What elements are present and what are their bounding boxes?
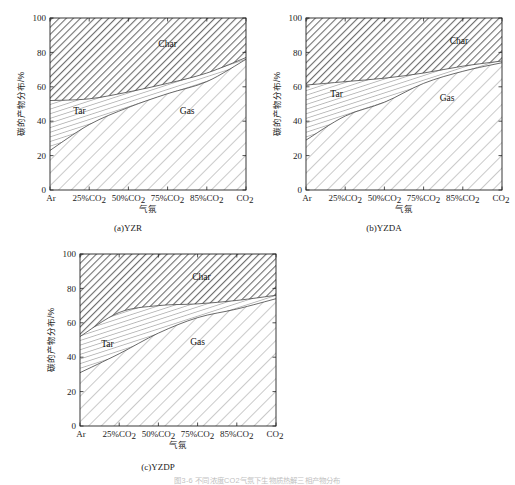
- x-axis-title: 气氛: [395, 204, 413, 214]
- y-tick-label: 60: [67, 318, 77, 328]
- x-tick-label: 75%CO2: [151, 193, 185, 205]
- x-tick-label: CO2: [492, 193, 509, 205]
- x-tick-label: 50%CO2: [112, 193, 145, 205]
- x-tick-label: 50%CO2: [142, 429, 175, 441]
- x-tick-label: 25%CO2: [328, 193, 362, 205]
- figure-bottom-caption: 图3-6 不同浓度CO2气氛下生物质热解三相产物分布: [0, 474, 515, 485]
- y-tick-label: 20: [293, 151, 303, 161]
- x-tick-label: 25%CO2: [102, 429, 136, 441]
- y-tick-label: 60: [293, 82, 303, 92]
- y-tick-label: 20: [37, 151, 47, 161]
- x-tick-label: 50%CO2: [368, 193, 401, 205]
- region-label-tar: Tar: [73, 106, 86, 116]
- region-label-tar: Tar: [330, 89, 343, 99]
- region-label-tar: Tar: [101, 339, 114, 349]
- chart-svg-c: 020406080100Ar25%CO250%CO275%CO285%CO2CO…: [32, 240, 284, 462]
- region-label-char: Char: [192, 272, 211, 282]
- region-label-gas: Gas: [190, 337, 205, 347]
- x-tick-label: CO2: [266, 429, 283, 441]
- region-label-gas: Gas: [440, 93, 455, 103]
- y-tick-label: 100: [63, 249, 77, 259]
- y-tick-label: 40: [293, 116, 303, 126]
- region-label-gas: Gas: [180, 106, 195, 116]
- x-tick-label: Ar: [76, 429, 86, 439]
- y-axis-title: 碳的产物分布/%: [46, 308, 56, 372]
- chart-svg-b: 020406080100Ar25%CO250%CO275%CO285%CO2CO…: [258, 4, 510, 224]
- x-tick-label: 75%CO2: [181, 429, 215, 441]
- y-tick-label: 100: [289, 13, 303, 23]
- region-label-char: Char: [450, 36, 469, 46]
- chart-panel-b: 020406080100Ar25%CO250%CO275%CO285%CO2CO…: [258, 4, 510, 236]
- subplot-caption-c: (c)YZDP: [32, 462, 284, 472]
- region-label-char: Char: [158, 39, 177, 49]
- x-tick-label: 75%CO2: [407, 193, 441, 205]
- figure-container: 020406080100Ar25%CO250%CO275%CO285%CO2CO…: [0, 0, 515, 485]
- x-tick-label: Ar: [46, 193, 56, 203]
- x-axis-title: 气氛: [139, 204, 157, 214]
- y-tick-label: 80: [293, 48, 303, 58]
- y-axis-title: 碳的产物分布/%: [16, 72, 26, 136]
- x-axis-title: 气氛: [169, 440, 187, 450]
- x-tick-label: Ar: [302, 193, 312, 203]
- x-tick-label: CO2: [236, 193, 253, 205]
- y-tick-label: 20: [67, 387, 77, 397]
- chart-panel-c: 020406080100Ar25%CO250%CO275%CO285%CO2CO…: [32, 240, 284, 475]
- y-tick-label: 60: [37, 82, 47, 92]
- x-tick-label: 85%CO2: [220, 429, 254, 441]
- y-tick-label: 40: [37, 116, 47, 126]
- x-tick-label: 25%CO2: [72, 193, 106, 205]
- subplot-caption-b: (b)YZDA: [258, 223, 510, 233]
- y-tick-label: 100: [33, 13, 47, 23]
- y-tick-label: 80: [37, 48, 47, 58]
- y-tick-label: 80: [67, 284, 77, 294]
- x-tick-label: 85%CO2: [446, 193, 480, 205]
- y-axis-title: 碳的产物分布/%: [272, 72, 282, 136]
- chart-svg-a: 020406080100Ar25%CO250%CO275%CO285%CO2CO…: [2, 4, 254, 224]
- x-tick-label: 85%CO2: [190, 193, 224, 205]
- subplot-caption-a: (a)YZR: [2, 223, 254, 233]
- chart-panel-a: 020406080100Ar25%CO250%CO275%CO285%CO2CO…: [2, 4, 254, 236]
- y-tick-label: 40: [67, 352, 77, 362]
